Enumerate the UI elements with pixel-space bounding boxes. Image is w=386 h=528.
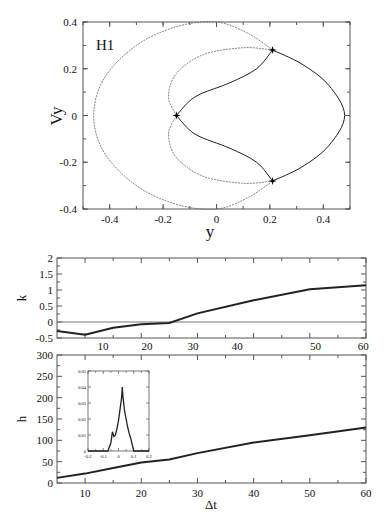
y-tick-label: 250 — [37, 370, 54, 382]
x-tick-label: 0.2 — [263, 213, 277, 225]
y-tick-label: 1 — [48, 284, 54, 296]
orbit-curve — [273, 50, 345, 181]
y-tick-label: 200 — [37, 392, 54, 404]
x-tick-label: 40 — [232, 340, 244, 352]
x-tick-label: 20 — [136, 487, 148, 499]
inset-y-tick-label: 0.03 — [78, 401, 87, 406]
x-tick-label: -0.4 — [101, 213, 119, 225]
h-axis-ticks: 102030405060050100150200250300 — [37, 349, 373, 499]
k-plot-frame — [57, 258, 366, 338]
y-tick-label: -0.4 — [60, 203, 78, 215]
inset-x-tick-label: 0 — [117, 454, 120, 459]
orbit-curve — [176, 116, 272, 181]
inset-y-tick-label: 0 — [84, 449, 87, 454]
y-tick-label: 100 — [37, 434, 54, 446]
x-tick-label: 30 — [187, 340, 199, 352]
inset-y-tick-label: 0.05 — [78, 369, 87, 374]
x-tick-label: 10 — [80, 487, 92, 499]
figure: -0.4-0.200.20.4-0.4-0.200.20.4 H1 y Vy 1… — [0, 0, 386, 528]
h-panel: 102030405060050100150200250300 h Δt -0.2… — [14, 349, 372, 512]
y-tick-label: 0 — [72, 110, 78, 122]
x-tick-label: 50 — [310, 340, 322, 352]
x-tick-label: 30 — [192, 487, 204, 499]
h-y-axis-label: h — [14, 415, 29, 422]
x-tick-label: 0 — [214, 213, 220, 225]
y-tick-label: 2 — [48, 252, 54, 264]
orbit-curve — [168, 48, 272, 116]
orbit-curve — [94, 22, 273, 210]
x-tick-label: 60 — [361, 487, 373, 499]
y-tick-label: 0 — [48, 477, 54, 489]
y-tick-label: 0.5 — [39, 300, 53, 312]
orbit-curve — [176, 50, 272, 115]
inset-y-tick-label: 0.02 — [78, 417, 86, 422]
phase-y-axis-label: Vy — [47, 106, 66, 125]
y-tick-label: -0.2 — [60, 156, 77, 168]
y-tick-label: 300 — [37, 349, 54, 361]
inset-x-tick-label: -0.1 — [100, 454, 107, 459]
inset-x-tick-label: 0.2 — [146, 454, 152, 459]
y-tick-label: 1.5 — [39, 268, 53, 280]
x-tick-label: 0.4 — [316, 213, 330, 225]
x-tick-label: 40 — [248, 487, 260, 499]
phase-x-axis-label: y — [206, 222, 215, 241]
k-y-axis-label: k — [14, 294, 29, 301]
inset-x-tick-label: 0.1 — [131, 454, 137, 459]
fixed-point-marker — [269, 46, 277, 54]
k-panel: 102030405060-0.500.511.52 k — [14, 252, 369, 352]
x-tick-label: 10 — [98, 340, 110, 352]
phase-orbit-curves — [94, 22, 345, 210]
x-tick-label: 60 — [358, 340, 370, 352]
y-tick-label: 0.2 — [63, 63, 77, 75]
h-x-axis-label: Δt — [205, 497, 217, 512]
x-tick-label: 50 — [304, 487, 316, 499]
x-tick-label: 20 — [141, 340, 153, 352]
inset-x-tick-label: -0.2 — [84, 454, 91, 459]
inset-plot-frame — [88, 371, 149, 451]
fixed-point-marker — [269, 177, 277, 185]
k-data-line — [57, 285, 366, 335]
h-inset-plot: -0.2-0.100.10.200.010.020.030.040.05 — [78, 369, 152, 460]
y-tick-label: -0.5 — [36, 332, 54, 344]
y-tick-label: 0.4 — [63, 16, 77, 28]
phase-annotation-label: H1 — [96, 37, 114, 53]
y-tick-label: 0 — [48, 316, 54, 328]
y-tick-label: 150 — [37, 413, 54, 425]
k-axis-ticks: 102030405060-0.500.511.52 — [36, 252, 370, 352]
phase-portrait-panel: -0.4-0.200.20.4-0.4-0.200.20.4 H1 y Vy — [47, 16, 350, 241]
inset-y-tick-label: 0.01 — [78, 433, 86, 438]
x-tick-label: -0.2 — [154, 213, 171, 225]
orbit-curve — [168, 116, 272, 184]
inset-y-tick-label: 0.04 — [78, 385, 87, 390]
y-tick-label: 50 — [42, 456, 54, 468]
phase-plot-frame — [83, 22, 350, 209]
